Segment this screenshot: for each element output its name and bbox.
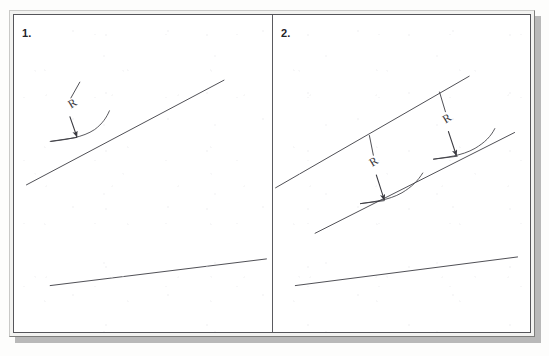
panel-one: 1. R [14,15,272,332]
radius-callout-1-base-stroke [50,137,77,141]
radius-callout-1-arrow [376,175,384,200]
radius-callout-2-fillet-arc [434,129,495,160]
upper-inclined-line [26,80,224,185]
figure-frame: 1. R 2. RR [9,10,535,337]
panel-one-drawing: R [14,15,272,332]
figure-inner-border: 1. R 2. RR [13,14,531,333]
radius-callout-1-leader-line [369,135,373,155]
radius-callout-1-base-stroke [361,201,385,204]
lower-inclined-line [295,257,517,286]
radius-callout-1-arrow [70,117,77,137]
radius-callout-1-fillet-arc [361,173,423,204]
lower-inclined-line [50,259,266,286]
radius-callout-2-base-stroke [434,156,458,159]
radius-callout-2-label: R [440,110,454,126]
radius-callout-1-label: R [65,95,79,111]
panel-two-drawing: RR [273,15,530,332]
radius-callout-1-fillet-arc [51,111,109,142]
radius-callout-1-label: R [367,154,381,170]
panel-two: 2. RR [273,15,530,332]
radius-callout-2-arrow [448,132,456,156]
radius-callout-2-leader-line [440,92,446,112]
radius-callout-1-leader-line [71,82,80,98]
scanned-page: 1. R 2. RR [0,0,549,356]
